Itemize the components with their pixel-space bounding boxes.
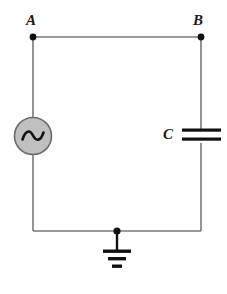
circuit-schematic-canvas xyxy=(0,0,227,294)
node-dot-group xyxy=(30,34,205,235)
capacitor-plate-top xyxy=(182,129,221,132)
capacitor-label: C xyxy=(163,127,173,142)
ground-bar-2 xyxy=(108,257,126,260)
ground-bar-3 xyxy=(112,265,122,268)
circuit-diagram: A B C xyxy=(0,0,227,294)
wire-group xyxy=(33,37,201,231)
node-label-a: A xyxy=(26,13,36,28)
capacitor-plate-bottom xyxy=(182,138,221,141)
node-dot-a xyxy=(30,34,37,41)
ground-bar-1 xyxy=(103,250,131,253)
ac-source xyxy=(15,118,52,155)
capacitor xyxy=(182,129,221,141)
node-label-b: B xyxy=(193,13,203,28)
node-dot-b xyxy=(198,34,205,41)
ground-symbol xyxy=(103,231,131,268)
node-dot-ground xyxy=(113,227,120,234)
